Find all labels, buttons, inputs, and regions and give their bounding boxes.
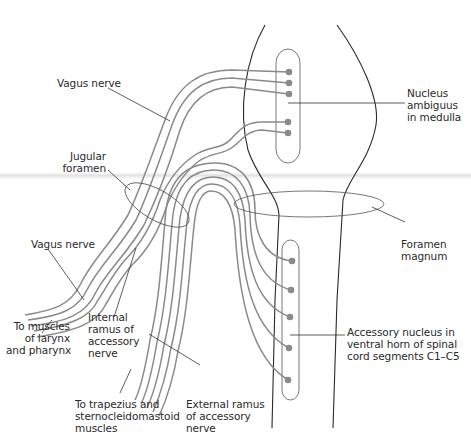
accessory-nerve-fibres [135,163,292,416]
label-foramen-magnum: Foramen magnum [401,238,447,262]
foramen-magnum-ellipse [234,191,384,217]
label-jugular-foramen: Jugular foramen [62,150,106,174]
nucleus-ambiguus-dots [285,69,293,137]
label-external-ramus: External ramus of accessory nerve [186,398,265,434]
label-accessory-nucleus: Accessory nucleus in ventral horn of spi… [347,326,460,362]
label-vagus-nerve-lower: Vagus nerve [31,238,95,250]
label-vagus-nerve-upper: Vagus nerve [57,77,121,89]
label-to-trapezius: To trapezius and sternocleidomastoid mus… [75,398,180,434]
label-internal-ramus: Internal ramus of accessory nerve [88,311,139,359]
vagus-nerve-fibres [25,70,289,326]
label-to-muscles-larynx: To muscles of larynx and pharynx [6,320,70,356]
nucleus-ambiguus-capsule [276,49,300,163]
brainstem-outline [243,25,376,428]
accessory-nucleus-dots [285,258,296,384]
label-nucleus-ambiguus: Nucleus ambiguus in medulla [407,87,461,123]
nerve-diagram [0,0,471,443]
